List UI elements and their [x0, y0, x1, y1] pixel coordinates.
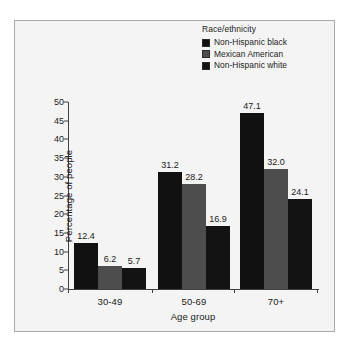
legend-title: Race/ethnicity [202, 24, 330, 35]
y-tick-mark [64, 102, 68, 103]
bar: 31.2 [158, 172, 182, 289]
y-tick-mark [64, 270, 68, 271]
bar: 32.0 [264, 169, 288, 289]
bar: 16.9 [206, 226, 230, 289]
x-axis-line [68, 289, 319, 290]
bar-value-label: 6.2 [104, 254, 117, 265]
legend-item-label: Non-Hispanic black [214, 37, 287, 49]
x-tick-mark [152, 289, 153, 293]
x-tick-mark [234, 289, 235, 293]
x-tick-mark [68, 289, 69, 293]
bar: 5.7 [122, 268, 146, 289]
plot-area: Percentage of people Age group 051015202… [68, 102, 318, 289]
bar-value-label: 12.4 [77, 231, 95, 242]
chart-legend: Race/ethnicity Non-Hispanic black Mexica… [202, 24, 330, 72]
x-tick-mark [317, 289, 318, 293]
x-axis-title: Age group [171, 311, 216, 322]
y-tick-mark [64, 195, 68, 196]
legend-item-label: Non-Hispanic white [214, 60, 287, 72]
x-category-label: 70+ [268, 296, 284, 307]
legend-swatch-icon [202, 62, 210, 70]
bar: 12.4 [74, 243, 98, 289]
x-category-label: 30-49 [98, 296, 123, 307]
figure: Race/ethnicity Non-Hispanic black Mexica… [0, 0, 350, 352]
legend-item-non-hispanic-white: Non-Hispanic white [202, 60, 330, 72]
bar-value-label: 24.1 [291, 187, 309, 198]
y-tick-mark [64, 251, 68, 252]
bar-value-label: 32.0 [267, 157, 285, 168]
y-tick-mark [64, 232, 68, 233]
x-category-label: 50-69 [182, 296, 207, 307]
bar-value-label: 31.2 [161, 160, 179, 171]
bar: 6.2 [98, 266, 122, 289]
legend-item-label: Mexican American [214, 49, 283, 61]
y-tick-mark [64, 176, 68, 177]
bar-value-label: 47.1 [243, 101, 261, 112]
bar: 28.2 [182, 184, 206, 289]
y-tick-mark [64, 139, 68, 140]
legend-swatch-icon [202, 50, 210, 58]
y-tick-mark [64, 214, 68, 215]
legend-swatch-icon [202, 39, 210, 47]
y-tick-mark [64, 120, 68, 121]
bar-value-label: 16.9 [209, 214, 227, 225]
legend-item-non-hispanic-black: Non-Hispanic black [202, 37, 330, 49]
bar: 24.1 [288, 199, 312, 289]
y-tick-mark [64, 158, 68, 159]
bar-value-label: 5.7 [128, 256, 141, 267]
legend-item-mexican-american: Mexican American [202, 49, 330, 61]
bar-value-label: 28.2 [185, 172, 203, 183]
bar: 47.1 [240, 113, 264, 289]
